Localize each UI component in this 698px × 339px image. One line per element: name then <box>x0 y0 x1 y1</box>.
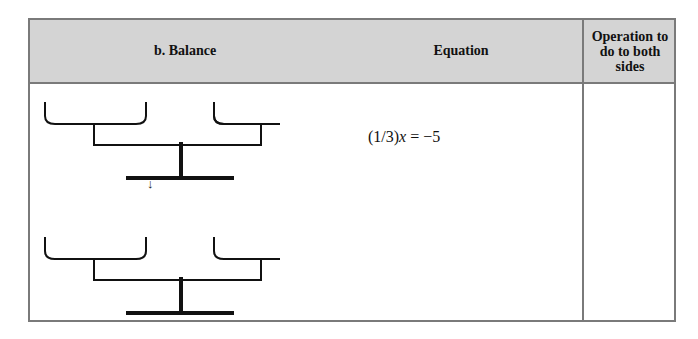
header-equation: Equation <box>340 20 582 82</box>
balance-scale-icon <box>40 233 280 319</box>
down-arrow-icon: ↓ <box>147 176 154 192</box>
table-header-row: b. Balance Equation Operation to do to b… <box>30 20 674 84</box>
header-balance: b. Balance <box>30 20 340 82</box>
equation-rhs: = −5 <box>406 128 440 145</box>
column-divider <box>582 20 584 320</box>
balance-scale-icon <box>40 98 280 184</box>
header-operation: Operation to do to both sides <box>584 20 676 82</box>
equation-coefficient: (1/3) <box>368 128 399 145</box>
equation-text: (1/3)x = −5 <box>368 128 440 146</box>
